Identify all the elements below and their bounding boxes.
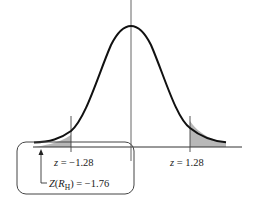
test-statistic-label: Z(RH) = −1.76 [49, 178, 109, 192]
right-cutoff-label: z = 1.28 [169, 157, 204, 168]
arrow-head-icon [39, 149, 44, 155]
bell-curve [34, 26, 226, 143]
left-cutoff-label: z = −1.28 [53, 157, 94, 168]
normal-distribution-diagram: z = −1.28 z = 1.28 Z(RH) = −1.76 [0, 0, 254, 207]
right-tail-shade [190, 121, 226, 147]
arrow-connector [41, 154, 47, 183]
